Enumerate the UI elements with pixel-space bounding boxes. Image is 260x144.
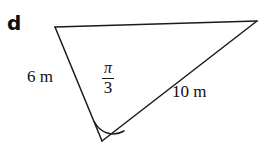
triangle-side-c	[55, 21, 257, 27]
item-letter-label: d	[7, 13, 21, 33]
angle-fraction-numerator: π	[102, 60, 115, 77]
side-a-length-label: 6 m	[27, 68, 53, 85]
triangle-figure: d 6 m 10 m π 3	[0, 0, 260, 144]
angle-fraction: π 3	[102, 60, 115, 97]
triangle-side-b	[102, 21, 257, 141]
angle-fraction-denominator: 3	[102, 79, 115, 97]
angle-measure-label: π 3	[96, 60, 120, 97]
side-b-length-label: 10 m	[172, 83, 206, 100]
